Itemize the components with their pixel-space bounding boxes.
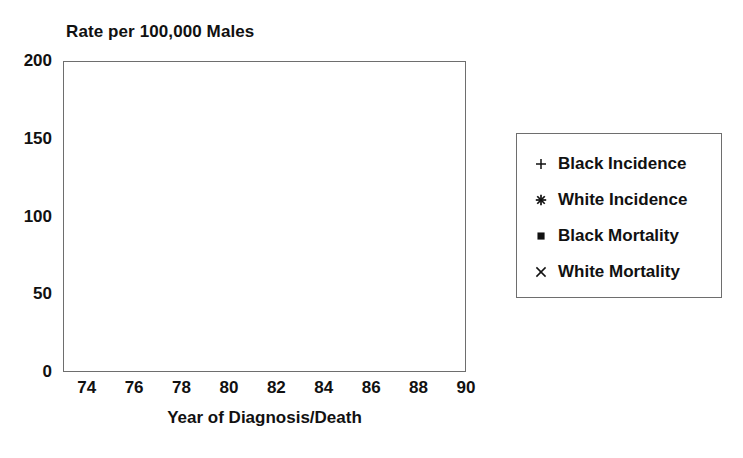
y-tick-label: 200 [24, 51, 52, 71]
asterisk-marker-icon [529, 188, 553, 212]
cross-marker-icon [529, 260, 553, 284]
legend-item-label: Black Incidence [558, 154, 687, 174]
x-tick-label: 88 [409, 378, 428, 398]
filled-square-marker-icon [529, 224, 553, 248]
chart-title: Rate per 100,000 Males [66, 22, 254, 42]
x-tick-label: 78 [172, 378, 191, 398]
legend-list: Black IncidenceWhite IncidenceBlack Mort… [517, 134, 721, 297]
plot-frame [63, 61, 466, 372]
x-tick-label: 84 [314, 378, 333, 398]
legend-item-white-incidence[interactable]: White Incidence [517, 182, 721, 218]
legend-item-label: Black Mortality [558, 226, 679, 246]
x-tick-label: 80 [219, 378, 238, 398]
x-tick-label: 74 [77, 378, 96, 398]
legend-item-black-incidence[interactable]: Black Incidence [517, 146, 721, 182]
y-axis-tick-labels: 050100150200 [0, 61, 58, 372]
x-axis-tick-labels: 747678808284868890 [63, 378, 466, 402]
x-tick-label: 86 [362, 378, 381, 398]
legend-item-label: White Incidence [558, 190, 687, 210]
legend-item-white-mortality[interactable]: White Mortality [517, 254, 721, 290]
chart-figure: Rate per 100,000 Males 050100150200 7476… [0, 0, 743, 458]
x-axis-title: Year of Diagnosis/Death [63, 408, 466, 428]
y-tick-label: 100 [24, 207, 52, 227]
legend: Black IncidenceWhite IncidenceBlack Mort… [516, 133, 722, 298]
y-tick-label: 50 [33, 284, 52, 304]
plus-marker-icon [529, 152, 553, 176]
y-tick-label: 150 [24, 129, 52, 149]
y-tick-label: 0 [43, 362, 52, 382]
legend-item-black-mortality[interactable]: Black Mortality [517, 218, 721, 254]
x-tick-label: 82 [267, 378, 286, 398]
x-tick-label: 76 [125, 378, 144, 398]
legend-item-label: White Mortality [558, 262, 680, 282]
plot-area [63, 61, 466, 372]
x-tick-label: 90 [457, 378, 476, 398]
